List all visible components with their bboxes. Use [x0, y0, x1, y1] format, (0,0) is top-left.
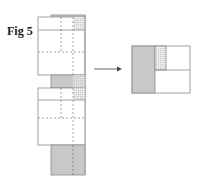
folding-strip	[38, 15, 85, 175]
folded-result	[132, 46, 190, 93]
arrow-right-icon	[94, 67, 122, 72]
diagram-canvas	[0, 0, 209, 181]
